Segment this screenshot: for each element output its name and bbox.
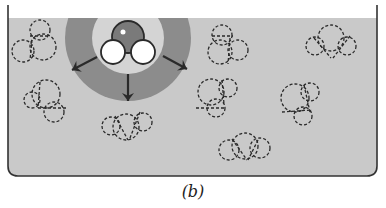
hydrogen-atom: [101, 40, 125, 64]
hydration-diagram: [0, 0, 386, 208]
water: [8, 18, 377, 176]
figure-caption: (b): [0, 182, 386, 201]
highlight-dot: [121, 30, 126, 35]
container: [8, 18, 377, 176]
hydrogen-atom: [131, 40, 155, 64]
